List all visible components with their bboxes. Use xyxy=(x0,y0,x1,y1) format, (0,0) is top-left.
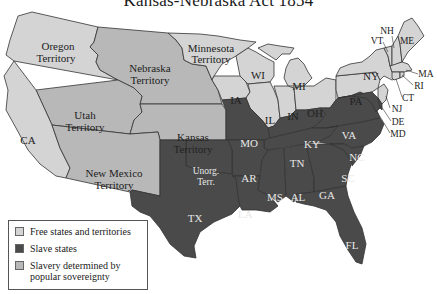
label-in: IN xyxy=(287,110,299,122)
label-ri: RI xyxy=(414,81,424,91)
label-ct: CT xyxy=(402,93,414,103)
label-mo: MO xyxy=(240,137,258,149)
label-la: LA xyxy=(238,208,253,220)
label-de: DE xyxy=(392,117,405,127)
label-ga: GA xyxy=(319,189,335,201)
label-minnesota-2: Territory xyxy=(192,53,231,65)
region-ct[interactable] xyxy=(392,72,400,80)
label-pa: PA xyxy=(349,95,362,107)
label-tx: TX xyxy=(188,212,203,224)
label-sc: SC xyxy=(341,172,354,184)
label-tn: TN xyxy=(290,157,305,169)
label-oregon-2: Territory xyxy=(37,52,76,64)
label-nj: NJ xyxy=(392,104,403,114)
label-nh: NH xyxy=(380,26,394,36)
label-vt: VT xyxy=(371,36,384,46)
swatch-free-icon xyxy=(15,227,24,236)
label-me: ME xyxy=(400,36,414,46)
label-va: VA xyxy=(342,129,357,141)
legend-label-free: Free states and territories xyxy=(30,226,131,237)
label-ar: AR xyxy=(241,172,257,184)
legend-item-popular-sovereignty: Slavery determined by popular sovereignt… xyxy=(15,260,141,282)
label-utah-2: Territory xyxy=(66,121,105,133)
label-oh: OH xyxy=(307,107,323,119)
label-ma: MA xyxy=(418,69,433,79)
label-unorg: Unorg. xyxy=(193,166,219,176)
legend-item-slave: Slave states xyxy=(15,243,141,254)
label-mi: MI xyxy=(292,80,306,92)
label-wi: WI xyxy=(251,69,265,81)
label-ca: CA xyxy=(20,134,35,146)
label-kansas: Kansas xyxy=(177,131,209,143)
label-fl: FL xyxy=(346,239,359,251)
label-oregon: Oregon xyxy=(42,40,75,52)
label-new-mexico-2: Territory xyxy=(95,179,134,191)
label-ms: MS xyxy=(267,191,283,203)
label-ia: IA xyxy=(230,94,242,106)
label-nc: NC xyxy=(349,151,364,163)
swatch-popular-sovereignty-icon xyxy=(15,261,24,270)
label-ky: KY xyxy=(304,138,320,150)
legend-item-free: Free states and territories xyxy=(15,226,141,237)
label-unorg-2: Terr. xyxy=(197,177,215,187)
label-il: IL xyxy=(265,114,276,126)
label-nebraska: Nebraska xyxy=(129,62,171,74)
label-md: MD xyxy=(390,129,405,139)
label-nebraska-2: Territory xyxy=(131,74,170,86)
legend-label-popular-sovereignty: Slavery determined by popular sovereignt… xyxy=(30,260,121,282)
swatch-slave-icon xyxy=(15,244,24,253)
legend: Free states and territories Slave states… xyxy=(8,220,148,290)
legend-label-slave: Slave states xyxy=(30,243,77,254)
label-new-mexico: New Mexico xyxy=(85,167,143,179)
label-utah: Utah xyxy=(74,109,96,121)
label-al: AL xyxy=(291,191,306,203)
label-ny: NY xyxy=(363,70,379,82)
label-kansas-2: Territory xyxy=(174,143,213,155)
